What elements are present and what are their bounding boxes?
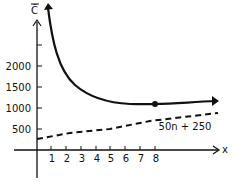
minimum-point-marker <box>152 101 158 107</box>
x-tick-label: 4 <box>94 153 100 164</box>
x-tick-label: 7 <box>138 153 144 164</box>
curve-end-arrow-icon <box>212 96 219 106</box>
x-tick-labels: 1 2 3 4 5 6 7 8 <box>49 153 159 164</box>
y-tick-label: 1000 <box>6 103 31 114</box>
x-tick-label: 3 <box>79 153 85 164</box>
y-tick-labels: 2000 1500 1000 500 <box>6 61 31 135</box>
x-tick-label: 6 <box>123 153 129 164</box>
x-axis-label: x <box>222 144 228 155</box>
chart: C̄ x 2000 1500 1000 500 1 2 3 4 5 6 7 8 <box>0 0 244 184</box>
y-ticks <box>37 45 42 129</box>
x-tick-label: 8 <box>153 153 159 164</box>
y-axis-label: C̄ <box>31 4 38 16</box>
x-tick-label: 1 <box>49 153 55 164</box>
average-cost-curve <box>48 8 216 104</box>
y-tick-label: 500 <box>12 124 31 135</box>
y-tick-label: 1500 <box>6 82 31 93</box>
x-tick-label: 2 <box>64 153 70 164</box>
curve-start-arrow-icon <box>44 3 53 10</box>
x-tick-label: 5 <box>108 153 114 164</box>
y-tick-label: 2000 <box>6 61 31 72</box>
linear-line-label: 50n + 250 <box>159 121 212 132</box>
